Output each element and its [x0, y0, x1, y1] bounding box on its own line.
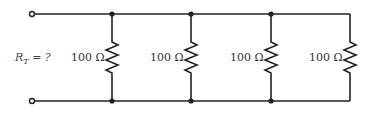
top-terminal: [30, 12, 35, 17]
bottom-terminal: [30, 99, 35, 104]
resistor-2: [185, 14, 197, 101]
resistor-3-label: 100 Ω: [230, 51, 264, 64]
equivalent-resistance-label: RT = ?: [15, 51, 51, 66]
resistor-4-label: 100 Ω: [309, 51, 343, 64]
resistor-2-label: 100 Ω: [150, 51, 184, 64]
resistor-1: [106, 14, 118, 101]
resistor-1-label: 100 Ω: [71, 51, 105, 64]
resistor-4: [344, 14, 356, 101]
resistor-3: [265, 14, 277, 101]
